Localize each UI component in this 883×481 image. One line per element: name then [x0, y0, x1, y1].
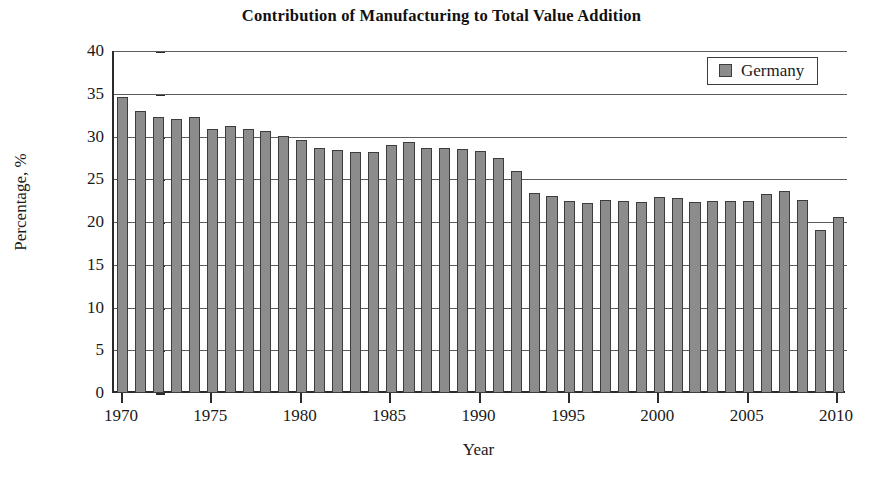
bar-series-germany	[114, 51, 847, 393]
bar-2002	[689, 202, 700, 393]
bar-1984	[368, 152, 379, 393]
bar-2005	[743, 201, 754, 393]
x-tick-label-1995: 1995	[528, 406, 608, 426]
bar-1972	[153, 117, 164, 393]
bar-1980	[296, 140, 307, 393]
bar-1990	[475, 151, 486, 393]
legend-swatch-germany	[719, 64, 732, 77]
bar-1983	[350, 152, 361, 393]
y-tick-label-30: 30	[62, 128, 104, 145]
bar-2006	[761, 194, 772, 393]
bar-1976	[225, 126, 236, 393]
y-tick-label-35: 35	[62, 85, 104, 102]
y-tick-label-20: 20	[62, 213, 104, 230]
bar-2003	[707, 201, 718, 393]
bar-2004	[725, 201, 736, 393]
bar-1995	[564, 201, 575, 393]
bar-1997	[600, 200, 611, 393]
bar-1989	[457, 149, 468, 393]
x-tick-label-1990: 1990	[439, 406, 519, 426]
x-axis-title: Year	[112, 440, 845, 460]
x-tick-mark-1990	[479, 393, 481, 403]
x-tick-mark-1985	[389, 393, 391, 403]
bar-2008	[797, 200, 808, 393]
bar-1993	[529, 193, 540, 393]
bar-1994	[546, 196, 557, 393]
bar-1991	[493, 158, 504, 393]
bar-1979	[278, 136, 289, 393]
legend[interactable]: Germany	[707, 57, 818, 85]
x-tick-mark-2010	[836, 393, 838, 403]
bar-1981	[314, 148, 325, 393]
x-tick-mark-2000	[657, 393, 659, 403]
y-tick-label-15: 15	[62, 256, 104, 273]
chart-title: Contribution of Manufacturing to Total V…	[0, 6, 883, 26]
bar-1973	[171, 119, 182, 393]
x-tick-label-1970: 1970	[81, 406, 161, 426]
bar-2010	[833, 217, 844, 393]
bar-1996	[582, 203, 593, 393]
y-tick-label-10: 10	[62, 299, 104, 316]
y-tick-label-0: 0	[62, 384, 104, 401]
x-tick-label-2010: 2010	[796, 406, 876, 426]
x-tick-mark-1970	[121, 393, 123, 403]
x-tick-label-1975: 1975	[170, 406, 250, 426]
x-tick-mark-2005	[747, 393, 749, 403]
x-tick-mark-1995	[568, 393, 570, 403]
y-axis-tick-group: 0510152025303540	[52, 51, 104, 393]
legend-label-germany: Germany	[741, 62, 804, 79]
bar-1982	[332, 150, 343, 393]
bar-2001	[672, 198, 683, 393]
bar-1975	[207, 129, 218, 393]
x-tick-label-2000: 2000	[617, 406, 697, 426]
bar-1986	[403, 142, 414, 393]
bar-1987	[421, 148, 432, 393]
y-tick-mark-0	[156, 393, 165, 395]
bar-1974	[189, 117, 200, 393]
bar-1998	[618, 201, 629, 393]
plot-area	[112, 51, 845, 393]
bar-1978	[260, 131, 271, 393]
bar-2009	[815, 230, 826, 393]
bar-1971	[135, 111, 146, 393]
y-axis-title: Percentage, %	[11, 102, 31, 302]
chart-figure: Contribution of Manufacturing to Total V…	[0, 0, 883, 481]
x-tick-mark-1980	[300, 393, 302, 403]
y-tick-label-40: 40	[62, 42, 104, 59]
bar-1988	[439, 148, 450, 393]
bar-1977	[243, 129, 254, 393]
bar-2007	[779, 191, 790, 393]
bar-2000	[654, 197, 665, 393]
bar-1985	[386, 145, 397, 393]
x-tick-label-2005: 2005	[707, 406, 787, 426]
x-tick-mark-1975	[210, 393, 212, 403]
bar-1970	[117, 97, 128, 393]
y-tick-label-25: 25	[62, 170, 104, 187]
x-tick-label-1985: 1985	[349, 406, 429, 426]
bar-1999	[636, 202, 647, 393]
x-tick-label-1980: 1980	[260, 406, 340, 426]
bar-1992	[511, 171, 522, 393]
y-tick-label-5: 5	[62, 341, 104, 358]
